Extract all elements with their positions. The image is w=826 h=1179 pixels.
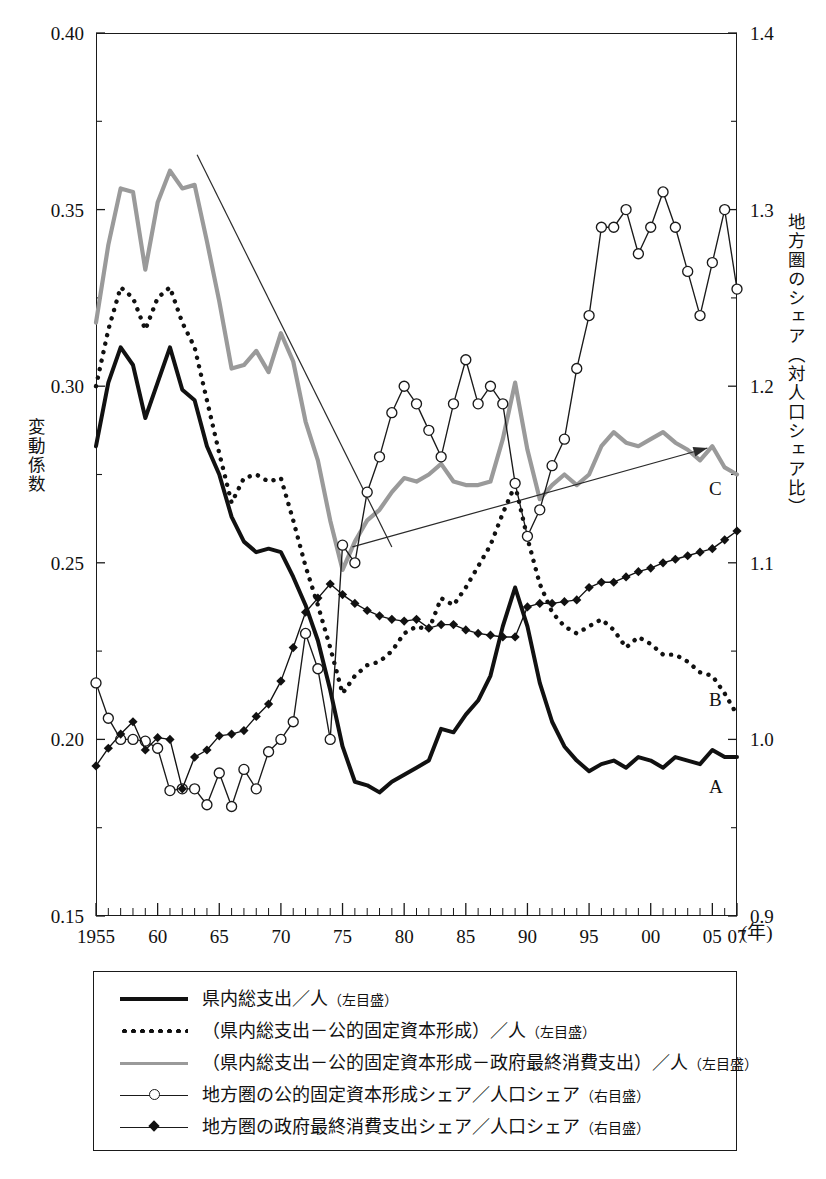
chart-page: 0.400.350.300.250.200.151.41.31.21.11.00… [0,0,826,1179]
y-left-tick-label: 0.40 [51,23,84,44]
y-right-tick-label: 1.2 [750,376,774,397]
legend-label-0: 県内総支出／人 [202,989,328,1009]
series-tag-b: B [709,689,722,711]
legend-item-4: 地方圏の政府最終消費支出シェア／人口シェア（右目盛） [94,1111,736,1143]
legend-item-2: （県内総支出－公的固定資本形成－政府最終消費支出）／人（左目盛） [94,1047,736,1079]
y-left-tick-label: 0.25 [51,553,84,574]
y-left-tick-label: 0.15 [51,906,84,927]
legend-item-1: （県内総支出－公的固定資本形成）／人（左目盛） [94,1015,736,1047]
series-tag-a: A [709,776,723,798]
legend: 県内総支出／人（左目盛） （県内総支出－公的固定資本形成）／人（左目盛） （県内… [93,971,737,1151]
x-tick-label: 00 [641,926,660,947]
legend-scale-2: （左目盛） [688,1057,758,1072]
y-right-tick-label: 1.4 [750,23,774,44]
x-tick-label: 60 [148,926,167,947]
x-tick-label: 65 [210,926,229,947]
y-right-axis-title: 地方圏のシェア（対人口シェア比） [786,213,804,517]
legend-label-3: 地方圏の公的固定資本形成シェア／人口シェア [202,1085,580,1105]
x-tick-label: 90 [518,926,537,947]
legend-label-2: （県内総支出－公的固定資本形成－政府最終消費支出）／人 [202,1053,688,1073]
x-tick-label: 80 [395,926,414,947]
legend-scale-3: （右目盛） [580,1089,650,1104]
legend-key-dotted-icon [116,1022,192,1040]
legend-scale-1: （左目盛） [526,1025,596,1040]
y-left-tick-label: 0.35 [51,200,84,221]
x-tick-label: 85 [456,926,475,947]
y-right-tick-label: 1.3 [750,200,774,221]
y-right-tick-label: 1.0 [750,729,774,750]
x-tick-label: 95 [580,926,599,947]
legend-scale-4: （右目盛） [580,1121,650,1136]
legend-key-filled-diamond-icon [116,1118,192,1136]
legend-key-open-circle-icon [116,1086,192,1104]
x-tick-label: 70 [271,926,290,947]
y-left-tick-label: 0.30 [51,376,84,397]
y-right-tick-label: 1.1 [750,553,774,574]
legend-item-0: 県内総支出／人（左目盛） [94,983,736,1015]
legend-scale-0: （左目盛） [328,993,398,1008]
legend-label-1: （県内総支出－公的固定資本形成）／人 [202,1021,526,1041]
x-tick-label: 05 [703,926,722,947]
y-left-axis-title: 変動係数 [26,418,44,494]
series-tag-c: C [709,478,722,500]
legend-item-3: 地方圏の公的固定資本形成シェア／人口シェア（右目盛） [94,1079,736,1111]
x-axis-unit: (年) [741,917,773,944]
x-tick-label: 1955 [77,926,115,947]
x-tick-label: 75 [333,926,352,947]
plot-area [96,33,737,916]
legend-key-solid-gray-icon [116,1054,192,1072]
legend-label-4: 地方圏の政府最終消費支出シェア／人口シェア [202,1117,580,1137]
y-left-tick-label: 0.20 [51,729,84,750]
legend-key-solid-thick-icon [116,990,192,1008]
